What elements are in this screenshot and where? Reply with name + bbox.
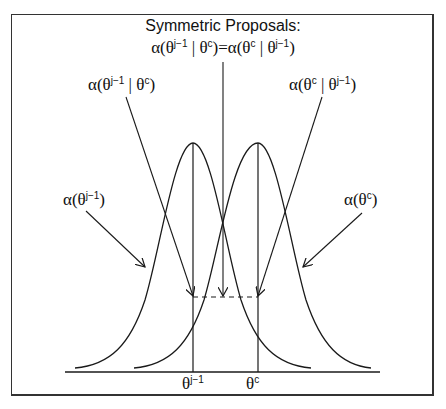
label-alpha-prev: α(θj−1)	[63, 190, 105, 210]
label-alpha-c: α(θc)	[344, 190, 377, 210]
tick-label-theta-c: θc	[246, 374, 259, 394]
arrow-alpha-c	[303, 213, 362, 267]
tick-label-theta-prev: θj−1	[182, 374, 204, 394]
density-curve-theta-c	[134, 143, 371, 368]
arrow-alpha-c-given-prev	[258, 97, 322, 296]
arrow-alpha-prev-given-c	[126, 97, 193, 296]
label-alpha-prev-given-c: α(θj−1 | θc)	[88, 75, 155, 95]
arrow-alpha-prev	[86, 211, 145, 267]
symmetry-equation: α(θj−1 | θc)=α(θc | θj−1)	[0, 38, 446, 58]
diagram-title: Symmetric Proposals:	[0, 17, 446, 35]
label-alpha-c-given-prev: α(θc | θj−1)	[289, 75, 356, 95]
